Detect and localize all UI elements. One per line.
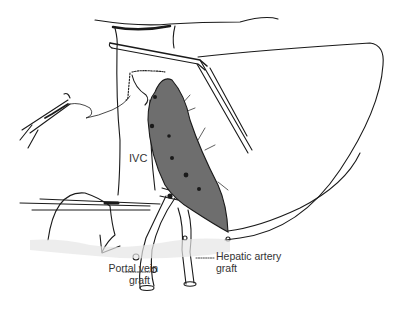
diaphragm-dark-band (113, 26, 170, 29)
ivc-left-wall (115, 28, 120, 195)
illustration-drawing (0, 0, 395, 319)
portal-vein-graft-label: Portal vein graft (72, 262, 158, 286)
hepatic-artery-label-line2: graft (216, 262, 281, 274)
hepatic-artery-graft-label: Hepatic artery graft (216, 250, 281, 274)
hepatic-artery-label-line1: Hepatic artery (216, 250, 281, 262)
tissue-stipple (30, 239, 230, 259)
diaphragm-edge (95, 18, 278, 25)
surgical-illustration: IVC Portal vein graft Hepatic artery gra… (0, 0, 395, 319)
portal-vein-label-line2: graft (72, 274, 158, 286)
ivc-label: IVC (129, 152, 147, 164)
portal-vein-label-line1: Portal vein (72, 262, 158, 274)
